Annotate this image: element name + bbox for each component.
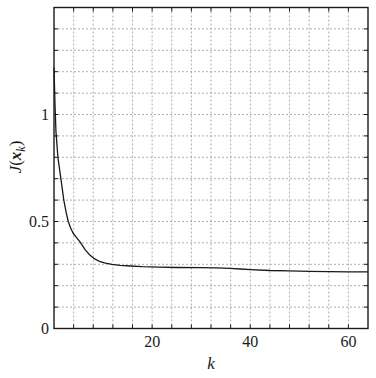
y-axis-label: J(xk): [6, 141, 29, 174]
line-chart-figure: 0 0.5 1 20 40 60 k J(xk): [0, 0, 376, 378]
x-tick-label: 40: [242, 334, 258, 350]
x-tick-label: 20: [144, 334, 160, 350]
y-tick-label: 0.5: [29, 214, 49, 230]
y-tick-label: 1: [41, 107, 49, 123]
y-tick-label: 0: [41, 321, 49, 337]
y-label-variable: x: [6, 152, 25, 161]
y-label-close-paren: ): [6, 141, 25, 147]
plot-area: [0, 0, 376, 378]
y-label-open-paren: (: [6, 160, 25, 166]
x-tick-label: 60: [340, 334, 356, 350]
y-label-subscript: k: [14, 146, 28, 151]
gridlines: [54, 8, 368, 329]
x-axis-label: k: [207, 354, 215, 374]
y-label-function: J: [6, 166, 25, 174]
